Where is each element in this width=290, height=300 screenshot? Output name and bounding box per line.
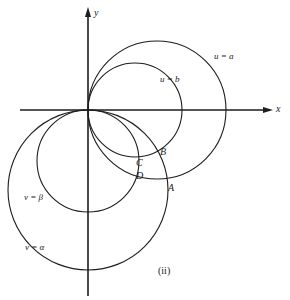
figure-container: y x u = a u = b v = β v = α A B C D (ii) — [0, 0, 290, 300]
curve-label-v-eq-beta: v = β — [24, 193, 43, 202]
x-axis-label: x — [276, 104, 280, 114]
curve-label-u-eq-b: u = b — [160, 75, 180, 84]
curve-label-u-eq-a: u = a — [214, 52, 234, 61]
point-label-b: B — [160, 147, 166, 157]
figure-canvas — [0, 0, 290, 300]
y-axis-arrowhead — [85, 7, 91, 17]
point-label-a: A — [168, 183, 174, 193]
point-label-c: C — [136, 158, 143, 168]
curve-label-v-eq-alpha: v = α — [25, 243, 44, 252]
figure-caption: (ii) — [158, 266, 170, 276]
y-axis-label: y — [94, 8, 98, 18]
x-axis-arrowhead — [263, 107, 273, 113]
point-label-d: D — [136, 171, 143, 181]
